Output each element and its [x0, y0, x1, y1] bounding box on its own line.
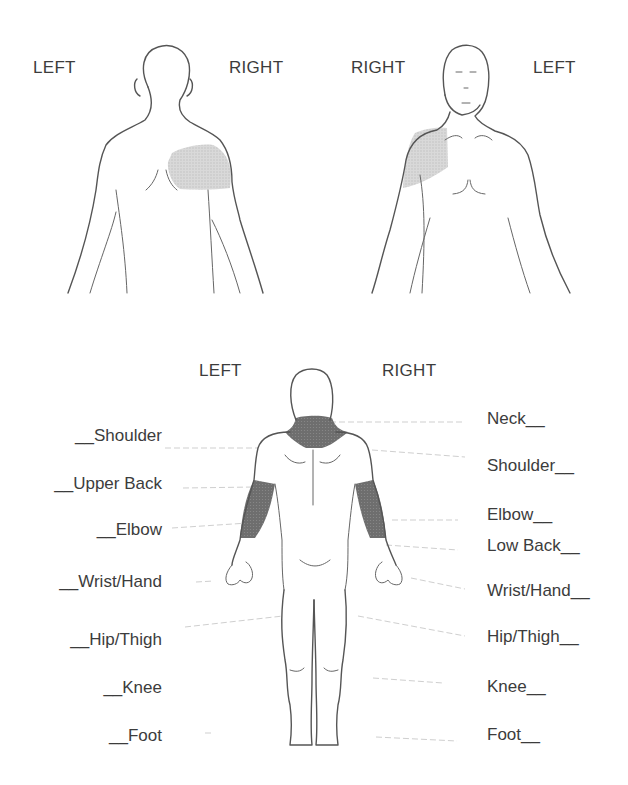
bottom-left-label: LEFT: [199, 361, 242, 381]
right-hip-thigh-item[interactable]: Hip/Thigh__: [487, 627, 579, 647]
right-low-back-item[interactable]: Low Back__: [487, 536, 580, 556]
upper-body-back-figure: [68, 46, 263, 293]
left-knee-item[interactable]: __Knee: [103, 678, 162, 698]
left-wrist-hand-item[interactable]: __Wrist/Hand: [59, 572, 162, 592]
top-back-right-label: RIGHT: [229, 58, 283, 78]
right-shoulder-shaded-area: [403, 128, 448, 188]
right-wrist-hand-item[interactable]: Wrist/Hand__: [487, 581, 590, 601]
right-elbow-item[interactable]: Elbow__: [487, 505, 552, 525]
left-foot-item[interactable]: __Foot: [109, 726, 162, 746]
upper-body-front-figure: [372, 45, 570, 293]
top-front-left-label: LEFT: [533, 58, 576, 78]
body-diagrams: [0, 0, 628, 785]
left-upper-back-item[interactable]: __Upper Back: [54, 474, 162, 494]
left-hip-thigh-item[interactable]: __Hip/Thigh: [70, 630, 162, 650]
left-elbow-item[interactable]: __Elbow: [97, 520, 162, 540]
left-shoulder-item[interactable]: __Shoulder: [75, 426, 162, 446]
right-foot-item[interactable]: Foot__: [487, 725, 540, 745]
bottom-right-label: RIGHT: [382, 361, 436, 381]
right-knee-item[interactable]: Knee__: [487, 677, 546, 697]
right-neck-item[interactable]: Neck__: [487, 409, 545, 429]
right-shoulder-shaded-area: [168, 145, 231, 190]
full-body-back-figure: [165, 369, 465, 745]
top-back-left-label: LEFT: [33, 58, 76, 78]
top-front-right-label: RIGHT: [351, 58, 405, 78]
right-shoulder-item[interactable]: Shoulder__: [487, 456, 574, 476]
